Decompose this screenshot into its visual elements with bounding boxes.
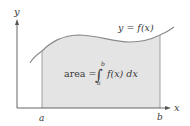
curve-label: y = f(x) [117, 22, 154, 33]
upper-limit-label: b [157, 112, 163, 122]
lower-limit-label: a [39, 113, 44, 123]
integrand: f(x) dx [106, 68, 138, 79]
integral-lower-limit: a [97, 79, 101, 86]
x-axis-arrow-icon [165, 106, 171, 110]
y-axis-arrow-icon [15, 19, 19, 25]
area-under-curve-diagram: y x a b y = f(x) area = ∫ b a f(x) dx [0, 0, 190, 126]
integral-upper-limit: b [101, 60, 105, 67]
formula-lhs: area = [64, 68, 96, 79]
x-axis-label: x [174, 102, 180, 113]
y-axis-label: y [13, 6, 20, 17]
